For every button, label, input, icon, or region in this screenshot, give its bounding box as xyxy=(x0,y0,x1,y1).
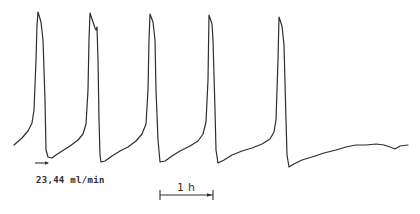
flow-arrow-icon xyxy=(35,161,49,164)
time-scale-label: 1 h xyxy=(177,181,195,194)
trace-figure: 23,44 ml/min 1 h xyxy=(0,0,420,214)
trace-line xyxy=(14,12,408,167)
flow-rate-label: 23,44 ml/min xyxy=(36,175,105,185)
